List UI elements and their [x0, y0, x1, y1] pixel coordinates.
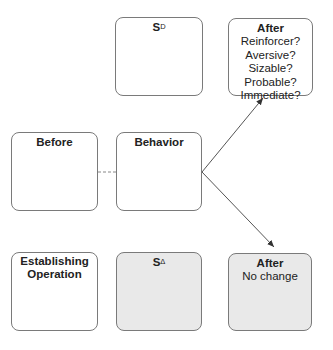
after-bottom-box: After No change	[228, 253, 312, 331]
s-delta-label: SΔ	[117, 256, 201, 269]
after-bottom-line: No change	[229, 270, 311, 284]
sd-label: SD	[116, 21, 202, 34]
eo-title-line1: Establishing	[12, 255, 97, 268]
after-top-line: Aversive?	[229, 49, 312, 63]
s-delta-box: SΔ	[116, 252, 202, 331]
after-top-line: Immediate?	[229, 89, 312, 103]
before-box: Before	[11, 132, 98, 211]
behavior-box: Behavior	[116, 132, 202, 211]
arrow-to-after-bottom	[202, 172, 274, 247]
after-top-box: After Reinforcer? Aversive? Sizable? Pro…	[228, 18, 313, 96]
after-bottom-title: After	[229, 257, 311, 270]
establishing-operation-box: Establishing Operation	[11, 252, 98, 331]
after-top-title: After	[229, 22, 312, 35]
sd-box: SD	[115, 17, 203, 96]
before-title: Before	[12, 136, 97, 149]
behavior-title: Behavior	[117, 136, 201, 149]
eo-title-line2: Operation	[12, 268, 97, 281]
after-top-line: Reinforcer?	[229, 35, 312, 49]
after-top-line: Sizable?	[229, 62, 312, 76]
arrow-to-after-top	[202, 98, 263, 172]
after-top-line: Probable?	[229, 76, 312, 90]
